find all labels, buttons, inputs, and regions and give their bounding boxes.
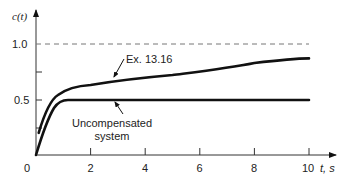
uncompensated-annotation-arrow	[115, 102, 123, 114]
step-response-chart: c(t) 1.0 0.5 0 2 4 6 8 10 t, s Ex. 13.16…	[0, 0, 350, 181]
y-tick-label-1.0: 1.0	[12, 38, 27, 50]
x-tick-label-6: 6	[197, 162, 203, 174]
y-axis-label: c(t)	[12, 10, 28, 23]
x-tick-label-2: 2	[88, 162, 94, 174]
annotation-uncompensated-line2: system	[95, 130, 130, 142]
x-axis-label: t, s	[320, 162, 335, 174]
annotation-uncompensated-line1: Uncompensated	[72, 117, 152, 129]
y-tick-label-0.5: 0.5	[14, 94, 29, 106]
x-tick-label-8: 8	[251, 162, 257, 174]
ex-annotation-arrow	[114, 59, 124, 77]
annotation-ex-13-16: Ex. 13.16	[126, 53, 172, 65]
x-tick-label-0: 0	[24, 162, 30, 174]
x-tick-label-10: 10	[302, 162, 314, 174]
x-tick-label-4: 4	[142, 162, 148, 174]
